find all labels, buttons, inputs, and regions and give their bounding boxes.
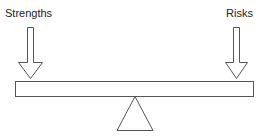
balance-beam bbox=[16, 82, 254, 97]
balance-diagram bbox=[0, 0, 265, 136]
risks-down-arrow-icon bbox=[226, 28, 248, 79]
fulcrum-triangle bbox=[117, 97, 153, 131]
strengths-down-arrow-icon bbox=[19, 28, 43, 79]
